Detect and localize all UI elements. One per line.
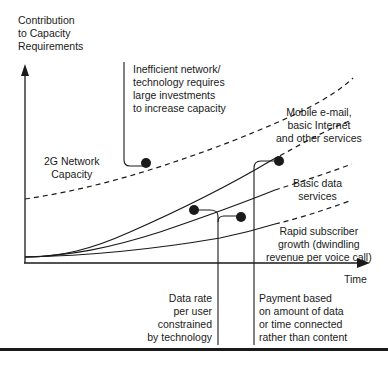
y-axis-arrow-icon bbox=[21, 64, 29, 76]
inefficient-callout-dot-icon bbox=[141, 158, 151, 168]
payment-label-line: on amount of data bbox=[259, 305, 347, 318]
payment-label-line: rather than content bbox=[259, 331, 347, 344]
rapid-subscriber-label-line: growth (dwindling bbox=[266, 238, 372, 251]
basic-data-label-line: Basic data bbox=[293, 177, 342, 190]
basic-data-label-line: services bbox=[293, 190, 342, 203]
y-axis-label-line: Requirements bbox=[18, 40, 83, 53]
mobile-email-label: Mobile e-mail, basic Internet and other … bbox=[276, 106, 362, 145]
capacity-label-line: Capacity bbox=[44, 168, 99, 181]
inefficient-label-line: technology requires bbox=[133, 76, 226, 89]
payment-callout-dot-icon bbox=[274, 156, 284, 166]
data-rate-callout-dot-b-icon bbox=[236, 212, 246, 222]
bottom-rule bbox=[0, 348, 388, 351]
data-rate-label-line: constrained bbox=[140, 318, 212, 331]
mobile-email-label-line: Mobile e-mail, bbox=[276, 106, 362, 119]
payment-label: Payment based on amount of data or time … bbox=[259, 292, 347, 344]
data-rate-label: Data rate per user constrained by techno… bbox=[140, 292, 212, 344]
mobile-email-label-line: basic Internet bbox=[276, 119, 362, 132]
data-rate-label-line: per user bbox=[140, 305, 212, 318]
capacity-label: 2G Network Capacity bbox=[44, 155, 99, 181]
data-rate-label-line: by technology bbox=[140, 331, 212, 344]
rapid-subscriber-curve-extension bbox=[275, 200, 352, 224]
inefficient-label-line: to increase capacity bbox=[133, 102, 226, 115]
x-axis-label: Time bbox=[344, 273, 367, 286]
rapid-subscriber-label-line: Rapid subscriber bbox=[266, 225, 372, 238]
mobile-email-label-line: and other services bbox=[276, 132, 362, 145]
inefficient-label-line: large investments bbox=[133, 89, 226, 102]
payment-label-line: or time connected bbox=[259, 318, 347, 331]
data-rate-label-line: Data rate bbox=[140, 292, 212, 305]
capacity-label-line: 2G Network bbox=[44, 155, 99, 168]
payment-label-line: Payment based bbox=[259, 292, 347, 305]
y-axis-label: Contribution to Capacity Requirements bbox=[18, 14, 83, 53]
y-axis-label-line: to Capacity bbox=[18, 27, 83, 40]
inefficient-label-line: Inefficient network/ bbox=[133, 63, 226, 76]
rapid-subscriber-label: Rapid subscriber growth (dwindling reven… bbox=[266, 225, 372, 264]
inefficient-label: Inefficient network/ technology requires… bbox=[133, 63, 226, 115]
rapid-subscriber-curve bbox=[25, 224, 275, 257]
rapid-subscriber-label-line: revenue per voice call) bbox=[266, 251, 372, 264]
y-axis-label-line: Contribution bbox=[18, 14, 83, 27]
basic-data-label: Basic data services bbox=[293, 177, 342, 203]
data-rate-callout-dot-a-icon bbox=[189, 205, 199, 215]
